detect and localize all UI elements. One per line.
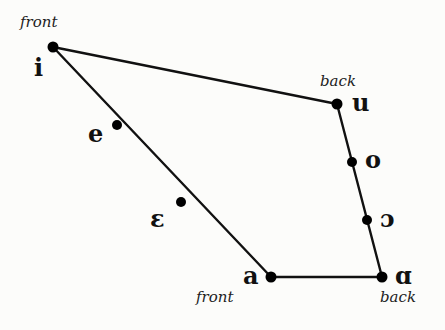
symbol-e: e <box>88 122 103 146</box>
symbol-i: i <box>34 56 43 80</box>
edge-u-alpha <box>337 104 382 277</box>
point-i <box>48 42 59 53</box>
symbol-epsilon: ɛ <box>150 207 165 231</box>
caption-alpha-back: back <box>380 289 416 305</box>
point-a <box>266 272 277 283</box>
point-o <box>347 157 357 167</box>
caption-i-front: front <box>20 14 57 30</box>
symbol-a: a <box>243 264 259 288</box>
point-alpha <box>377 272 388 283</box>
edge-a-i <box>53 47 271 277</box>
edge-i-u <box>53 47 337 104</box>
symbol-o: o <box>365 148 381 172</box>
symbol-open-o: ɔ <box>380 207 395 231</box>
point-u <box>332 99 343 110</box>
point-epsilon <box>176 197 186 207</box>
point-open-o <box>362 215 372 225</box>
caption-u-back: back <box>320 73 356 89</box>
point-e <box>112 120 122 130</box>
symbol-u: u <box>352 91 369 115</box>
symbol-alpha: ɑ <box>395 264 412 288</box>
vowel-quadrilateral-diagram: front i back u e ɛ o ɔ a front ɑ back <box>0 0 445 330</box>
caption-a-front: front <box>196 289 233 305</box>
